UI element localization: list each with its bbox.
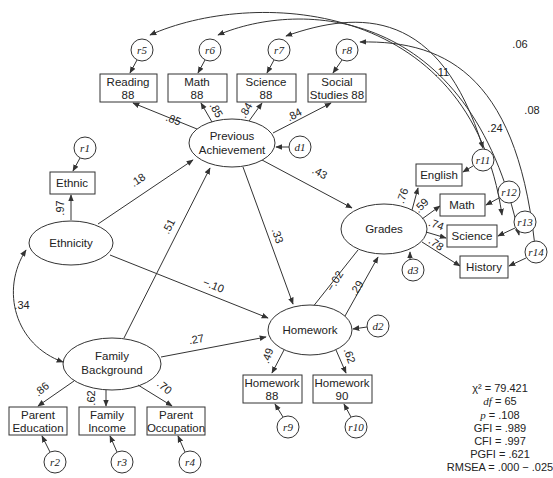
svg-text:r13: r13 (517, 216, 533, 228)
svg-text:Studies 88: Studies 88 (310, 89, 364, 101)
box-math: Math (440, 194, 485, 216)
svg-text:Homework: Homework (315, 377, 370, 389)
svg-text:.85: .85 (164, 111, 183, 128)
box-math-88: Math88 (168, 74, 227, 102)
svg-text:r12: r12 (501, 186, 517, 198)
svg-text:Previous: Previous (210, 130, 255, 142)
latent-grades: Grades (341, 204, 427, 254)
svg-text:History: History (466, 261, 502, 273)
svg-text:df = 65: df = 65 (483, 395, 516, 407)
box-science: Science (447, 225, 497, 247)
error-r12: r12 (498, 181, 520, 203)
svg-text:CFI = .997: CFI = .997 (474, 435, 526, 447)
svg-text:p = .108: p = .108 (479, 409, 519, 421)
svg-text:d2: d2 (373, 320, 385, 332)
svg-text:88: 88 (260, 89, 273, 101)
svg-text:.86: .86 (32, 379, 51, 398)
svg-text:Homework: Homework (245, 377, 300, 389)
svg-text:.76: .76 (394, 186, 411, 204)
error-r6: r6 (199, 39, 221, 61)
svg-text:.43: .43 (310, 164, 329, 182)
svg-text:Family: Family (90, 409, 124, 421)
svg-text:Parent: Parent (21, 409, 56, 421)
svg-text:.27: .27 (188, 332, 205, 346)
svg-text:.97: .97 (54, 200, 66, 215)
svg-text:English: English (420, 169, 458, 181)
error-r9: r9 (277, 416, 299, 438)
svg-text:r2: r2 (50, 456, 60, 468)
svg-text:.62: .62 (85, 390, 97, 405)
svg-text:RMSEA = .000 − .025: RMSEA = .000 − .025 (447, 461, 553, 473)
svg-text:r7: r7 (274, 44, 284, 56)
svg-text:Math: Math (449, 199, 475, 211)
box-homework-88: Homework88 (243, 375, 302, 403)
svg-text:r5: r5 (137, 44, 147, 56)
svg-text:Education: Education (12, 422, 63, 434)
svg-text:Grades: Grades (365, 223, 403, 235)
fit-statistics: χ² = 79.421 df = 65 p = .108 GFI = .989 … (447, 382, 553, 473)
error-d3: d3 (402, 259, 424, 281)
error-r14: r14 (525, 241, 547, 263)
svg-text:Math: Math (184, 76, 210, 88)
error-r8: r8 (336, 39, 358, 61)
svg-text:Achievement: Achievement (199, 144, 266, 156)
svg-text:r6: r6 (205, 44, 215, 56)
svg-text:r9: r9 (283, 421, 293, 433)
svg-text:90: 90 (336, 390, 349, 402)
error-r13: r13 (514, 211, 536, 233)
error-d2: d2 (367, 315, 389, 337)
svg-text:Science: Science (452, 230, 493, 242)
svg-text:.70: .70 (155, 377, 174, 396)
error-r10: r10 (345, 416, 367, 438)
svg-text:r3: r3 (117, 456, 127, 468)
svg-text:χ² = 79.421: χ² = 79.421 (472, 382, 528, 394)
svg-text:.51: .51 (160, 217, 178, 236)
svg-text:Income: Income (88, 422, 126, 434)
svg-text:88: 88 (122, 89, 135, 101)
svg-text:r4: r4 (185, 456, 195, 468)
box-ethnic: Ethnic (50, 172, 95, 194)
error-r4: r4 (179, 451, 201, 473)
svg-text:r14: r14 (528, 246, 544, 258)
svg-text:Background: Background (81, 364, 142, 376)
svg-text:d1: d1 (295, 141, 306, 153)
error-r5: r5 (131, 39, 153, 61)
sem-diagram: .06 .11 .24 .08 r5 r6 r7 r8 Reading88 Ma… (0, 0, 553, 478)
latent-homework: Homework (268, 305, 352, 355)
svg-text:.34: .34 (14, 299, 29, 311)
cov-label: .11 (435, 66, 449, 78)
svg-text:Ethnic: Ethnic (56, 177, 88, 189)
svg-text:Social: Social (321, 76, 352, 88)
latent-previous-achievement: Previous Achievement (189, 119, 275, 167)
svg-text:r1: r1 (80, 142, 90, 154)
svg-text:88: 88 (191, 89, 204, 101)
error-r1: r1 (74, 137, 96, 159)
svg-text:88: 88 (266, 390, 279, 402)
svg-text:r8: r8 (342, 44, 352, 56)
error-d1: d1 (289, 136, 311, 158)
svg-text:.33: .33 (270, 226, 287, 244)
svg-text:Reading: Reading (107, 76, 150, 88)
error-r3: r3 (111, 451, 133, 473)
svg-text:.49: .49 (259, 346, 276, 364)
svg-text:.85: .85 (207, 100, 225, 119)
svg-text:Homework: Homework (283, 324, 338, 336)
svg-text:PGFI = .621: PGFI = .621 (470, 448, 530, 460)
svg-text:.18: .18 (128, 170, 147, 189)
svg-text:.29: .29 (347, 278, 365, 297)
svg-text:Ethnicity: Ethnicity (49, 237, 93, 249)
svg-text:d3: d3 (408, 264, 420, 276)
box-history: History (460, 256, 508, 278)
cov-label: .24 (487, 122, 502, 134)
svg-text:.84: .84 (285, 106, 304, 124)
svg-text:.74: .74 (427, 216, 445, 233)
box-parent-occupation: ParentOccupation (147, 407, 205, 435)
svg-text:Science: Science (246, 76, 287, 88)
svg-text:GFI = .989: GFI = .989 (474, 422, 526, 434)
latent-family-background: Family Background (63, 338, 161, 390)
error-r7: r7 (268, 39, 290, 61)
box-parent-education: ParentEducation (9, 407, 67, 435)
latent-ethnicity: Ethnicity (29, 221, 113, 265)
box-science-88: Science88 (237, 74, 296, 102)
svg-text:r10: r10 (348, 421, 364, 433)
